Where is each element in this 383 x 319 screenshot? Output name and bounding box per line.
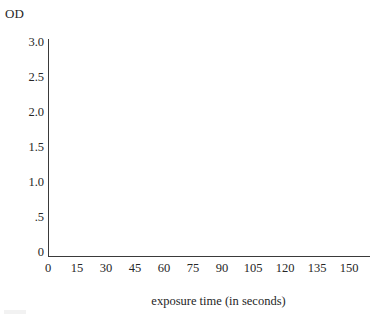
- x-tick-label: 150: [329, 261, 369, 275]
- x-axis-title: exposure time (in seconds): [0, 293, 383, 309]
- scan-artifact: [4, 310, 26, 314]
- x-tick-labels: 0 15 30 45 60 75 90 105 120 135 150: [0, 0, 383, 319]
- x-axis-title-text: exposure time (in seconds): [151, 293, 285, 309]
- chart-figure: OD 3.0 2.5 2.0 1.5 1.0 .5 0 0 15 30 45 6…: [0, 0, 383, 319]
